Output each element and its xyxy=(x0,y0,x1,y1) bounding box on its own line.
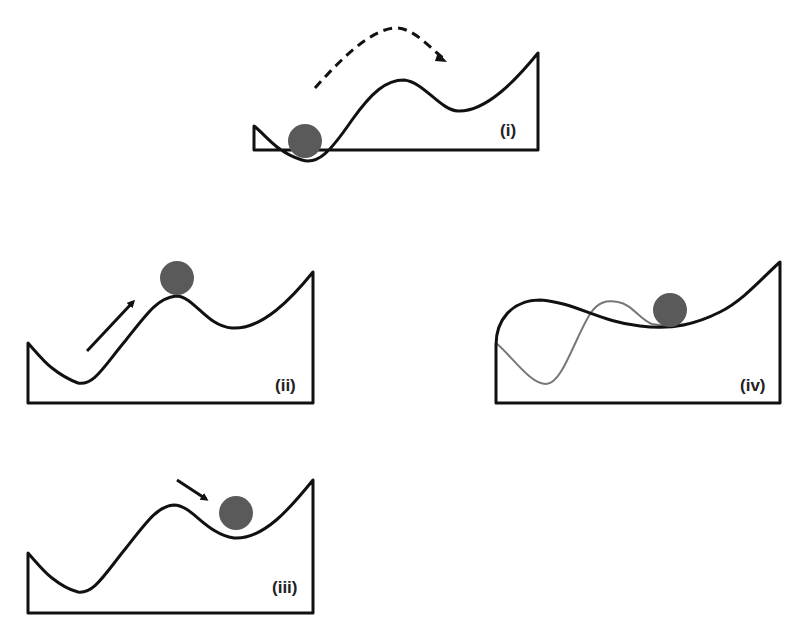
panel-i: (i) xyxy=(254,28,538,161)
panel-label-ii: (ii) xyxy=(275,376,296,395)
ball-iii xyxy=(219,496,253,530)
energy-landscape-figure: (i) (ii) (iii) (iv) xyxy=(0,0,804,636)
landscape-curve-iii xyxy=(28,480,313,613)
panel-iii: (iii) xyxy=(28,480,313,613)
panel-label-iii: (iii) xyxy=(272,578,298,597)
dashed-arrow-icon xyxy=(315,28,443,88)
arrow-down-right-icon xyxy=(177,480,206,499)
panel-label-i: (i) xyxy=(500,121,516,140)
panel-iv: (iv) xyxy=(496,262,780,403)
ball-i xyxy=(288,124,322,158)
panel-label-iv: (iv) xyxy=(740,376,766,395)
arrow-up-right-icon xyxy=(87,302,133,351)
ball-ii xyxy=(160,261,194,295)
panel-ii: (ii) xyxy=(28,261,313,403)
ball-iv xyxy=(653,293,687,327)
